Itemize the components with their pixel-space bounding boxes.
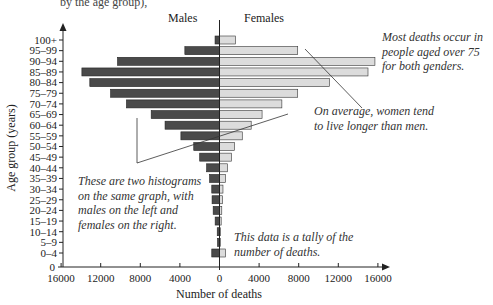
bar-male	[210, 174, 220, 182]
annotation-two-histograms: These are two histograms on the same gra…	[78, 174, 204, 232]
x-tick-label: 12000	[325, 272, 353, 284]
bar-female	[220, 100, 282, 108]
y-tick-label: 0–4	[41, 247, 58, 259]
bar-male	[215, 217, 219, 225]
bar-male	[200, 153, 220, 161]
bar-male	[181, 132, 220, 140]
bar-male	[212, 249, 220, 257]
annotation-line: on the same graph, with	[78, 189, 194, 203]
x-tick-label: 8000	[288, 272, 311, 284]
bar-male	[212, 196, 219, 204]
bar-male	[90, 79, 220, 87]
bar-male	[215, 36, 219, 44]
x-tick-label: 4000	[248, 272, 271, 284]
x-tick-label: 12000	[87, 272, 115, 284]
x-tick-label: 16000	[47, 272, 75, 284]
bar-female	[220, 153, 232, 161]
x-ticks-group: 1600012000800040000400080001200016000	[47, 263, 392, 284]
bar-female	[220, 47, 298, 55]
bar-male	[82, 68, 220, 76]
annotation-line: people aged over 75	[381, 45, 480, 59]
bar-male	[111, 89, 220, 97]
y-ticks-group: 100+95–9990–9485–8980–8475–7970–7465–696…	[30, 34, 64, 259]
annotation-women-longer: On average, women tend to live longer th…	[314, 104, 437, 133]
bar-female	[220, 143, 235, 151]
bar-female	[220, 132, 243, 140]
y-axis-title: Age group (years)	[4, 104, 18, 191]
bar-female	[220, 121, 252, 129]
bar-male	[213, 206, 219, 214]
bar-female	[220, 36, 236, 44]
x-tick-label: 8000	[129, 272, 152, 284]
y-axis-arrow-icon	[60, 23, 67, 31]
x-tick-label: 0	[217, 272, 223, 284]
x-tick-label: 16000	[364, 272, 392, 284]
header-partial-text: by the age group),	[60, 0, 147, 9]
bar-male	[165, 121, 219, 129]
bar-female	[220, 89, 298, 97]
annotation-line: males on the left and	[78, 203, 179, 217]
bar-female	[220, 249, 226, 257]
population-pyramid-chart: by the age group), Males Females 100+95–…	[0, 0, 493, 305]
annotation-most-deaths: Most deaths occur in people aged over 75…	[381, 30, 486, 73]
x-axis-title: Number of deaths	[176, 287, 262, 301]
annotation-line: number of deaths.	[234, 245, 320, 259]
annotation-line: These are two histograms	[78, 174, 202, 188]
annotation-line: for both genders.	[382, 59, 464, 73]
legend-females: Females	[244, 11, 284, 25]
annotation-line: On average, women tend	[314, 104, 435, 118]
bar-male	[185, 47, 220, 55]
bar-male	[126, 100, 219, 108]
x-axis-arrow-icon	[382, 264, 390, 271]
annotation-line: Most deaths occur in	[381, 30, 483, 44]
legend-males: Males	[168, 11, 198, 25]
annotation-line: to live longer than men.	[314, 119, 428, 133]
x-tick-label: 4000	[169, 272, 192, 284]
bar-female	[220, 164, 228, 172]
y-zero-label: 0	[50, 261, 56, 273]
annotation-line: females on the right.	[78, 218, 177, 232]
bar-male	[212, 185, 220, 193]
bar-female	[220, 57, 375, 65]
bar-male	[207, 164, 220, 172]
bar-female	[220, 185, 223, 193]
bar-female	[220, 111, 263, 119]
bar-male	[151, 111, 219, 119]
annotation-tally: This data is a tally of the number of de…	[234, 230, 356, 259]
bar-female	[220, 174, 226, 182]
bar-male	[118, 57, 220, 65]
bar-female	[220, 68, 369, 76]
annotation-line: This data is a tally of the	[234, 230, 354, 244]
bar-female	[220, 79, 330, 87]
